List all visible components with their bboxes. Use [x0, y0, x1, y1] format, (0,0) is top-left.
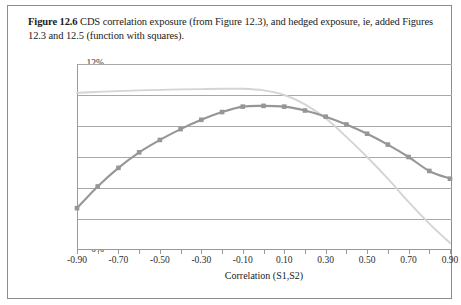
x-axis-tick-label: -0.30	[191, 255, 211, 265]
x-axis-tick-label: 0.10	[276, 255, 293, 265]
figure-caption: Figure 12.6 CDS correlation exposure (fr…	[28, 15, 438, 43]
series-marker-square	[199, 118, 204, 123]
x-axis-tick	[326, 250, 327, 254]
x-axis-tick	[284, 250, 285, 254]
x-axis-tick	[98, 250, 99, 254]
series-marker-square	[178, 127, 183, 132]
x-axis-tick-label: -0.70	[109, 255, 129, 265]
x-axis-tick-label: -0.90	[67, 255, 87, 265]
x-axis-labels: -0.90-0.70-0.50-0.30-0.100.100.300.500.7…	[77, 255, 451, 269]
x-axis-tick	[201, 250, 202, 254]
x-axis-tick-label: 0.30	[317, 255, 334, 265]
series-marker-square	[303, 108, 308, 113]
x-axis-tick	[222, 250, 223, 254]
series-marker-square	[158, 138, 163, 143]
series-marker-square	[75, 206, 80, 211]
figure-caption-text: CDS correlation exposure (from Figure 12…	[28, 16, 433, 41]
series-marker-square	[240, 104, 245, 109]
x-axis-tick	[243, 250, 244, 254]
x-axis-tick	[181, 250, 182, 254]
x-axis-tick-label: 0.90	[442, 255, 459, 265]
x-axis-tick	[367, 250, 368, 254]
series-marker-square	[427, 169, 432, 174]
series-marker-square	[365, 131, 370, 136]
x-axis-tick	[388, 250, 389, 254]
figure-label: Figure 12.6	[28, 16, 77, 27]
x-axis-tick	[305, 250, 306, 254]
series-marker-square	[323, 114, 328, 119]
x-axis-tick-label: 0.50	[359, 255, 376, 265]
x-axis-tick	[264, 250, 265, 254]
series-marker-square	[282, 104, 287, 109]
figure-frame: Figure 12.6 CDS correlation exposure (fr…	[7, 5, 452, 299]
x-axis-tick	[450, 250, 451, 254]
series-marker-square	[406, 155, 411, 160]
x-axis-tick	[118, 250, 119, 254]
series-marker-square	[344, 122, 349, 127]
series-marker-square	[116, 166, 121, 171]
x-axis-title: Correlation (S1,S2)	[77, 270, 451, 281]
series-marker-square	[448, 176, 453, 181]
series-layer	[77, 64, 451, 250]
series-line-2	[77, 106, 450, 208]
series-marker-square	[137, 150, 142, 155]
x-axis-tick-label: 0.70	[400, 255, 417, 265]
series-line-1	[77, 89, 450, 243]
x-axis-tick-label: -0.50	[150, 255, 170, 265]
x-axis-tick	[346, 250, 347, 254]
series-marker-square	[220, 110, 225, 115]
x-axis-tick	[429, 250, 430, 254]
x-axis-tick	[409, 250, 410, 254]
x-axis-tick	[77, 250, 78, 254]
chart-canvas: Relative change 0%2%4%6%8%10%12% -0.90-0…	[70, 56, 452, 256]
x-axis-tick	[139, 250, 140, 254]
series-marker-square	[386, 142, 391, 147]
series-marker-square	[95, 184, 100, 189]
x-axis-tick-label: -0.10	[233, 255, 253, 265]
series-marker-square	[261, 104, 266, 109]
x-axis-tick	[160, 250, 161, 254]
